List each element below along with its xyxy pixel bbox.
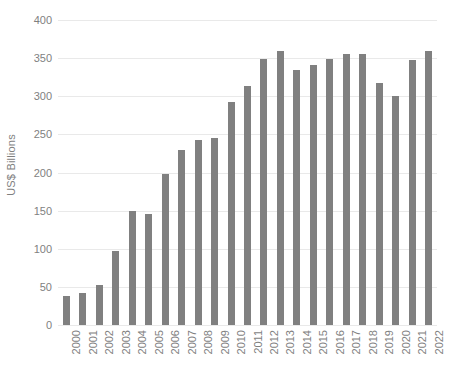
- y-axis-tick-labels: 400350300250200150100500: [0, 0, 52, 371]
- x-axis-tick-label: 2011: [253, 330, 264, 354]
- bar[interactable]: [359, 54, 366, 325]
- x-axis-tick-label: 2008: [203, 330, 214, 354]
- bar[interactable]: [129, 211, 136, 325]
- bar-chart: US$ Billions 400350300250200150100500 20…: [0, 0, 449, 371]
- bar[interactable]: [63, 296, 70, 325]
- bar[interactable]: [162, 174, 169, 325]
- y-axis-tick-label: 300: [0, 91, 52, 102]
- bar-slot[interactable]: [206, 20, 222, 325]
- bar[interactable]: [79, 293, 86, 325]
- bar[interactable]: [195, 140, 202, 325]
- bar-slot[interactable]: [421, 20, 437, 325]
- bar-slot[interactable]: [404, 20, 420, 325]
- x-axis-tick-label: 2004: [137, 330, 148, 354]
- x-axis-tick-label: 2010: [236, 330, 247, 354]
- bar-slot[interactable]: [256, 20, 272, 325]
- bar-slot[interactable]: [388, 20, 404, 325]
- y-axis-tick-label: 50: [0, 281, 52, 292]
- bar-slot[interactable]: [173, 20, 189, 325]
- bar-slot[interactable]: [58, 20, 74, 325]
- y-axis-tick-label: 250: [0, 129, 52, 140]
- x-axis-tick-label: 2005: [154, 330, 165, 354]
- bar[interactable]: [310, 65, 317, 325]
- bar[interactable]: [343, 54, 350, 325]
- bar[interactable]: [277, 51, 284, 326]
- x-axis-tick-label: 2013: [285, 330, 296, 354]
- x-axis-tick-label: 2017: [351, 330, 362, 354]
- bar-slot[interactable]: [289, 20, 305, 325]
- bar-slot[interactable]: [124, 20, 140, 325]
- bar-slot[interactable]: [305, 20, 321, 325]
- x-axis-tick-label: 2001: [88, 330, 99, 354]
- x-axis-tick-label: 2016: [335, 330, 346, 354]
- y-axis-tick-label: 200: [0, 167, 52, 178]
- bar[interactable]: [409, 60, 416, 325]
- bar[interactable]: [392, 96, 399, 326]
- plot-area: [58, 20, 437, 325]
- x-axis-tick-label: 2019: [384, 330, 395, 354]
- bar[interactable]: [96, 285, 103, 325]
- x-axis-tick-label: 2002: [104, 330, 115, 354]
- bar-slot[interactable]: [338, 20, 354, 325]
- bar[interactable]: [376, 83, 383, 325]
- y-axis-tick-label: 150: [0, 205, 52, 216]
- bar[interactable]: [145, 214, 152, 325]
- bar-slot[interactable]: [91, 20, 107, 325]
- bar[interactable]: [425, 51, 432, 326]
- x-axis-tick-label: 2021: [417, 330, 428, 354]
- bar-slot[interactable]: [322, 20, 338, 325]
- x-axis-tick-label: 2000: [71, 330, 82, 354]
- y-axis-tick-label: 400: [0, 15, 52, 26]
- bar-slot[interactable]: [272, 20, 288, 325]
- bar-slot[interactable]: [371, 20, 387, 325]
- x-axis-tick-label: 2018: [368, 330, 379, 354]
- bar-slot[interactable]: [107, 20, 123, 325]
- bar-slot[interactable]: [140, 20, 156, 325]
- bar-slot[interactable]: [190, 20, 206, 325]
- x-axis-tick-label: 2014: [302, 330, 313, 354]
- y-axis-tick-label: 0: [0, 320, 52, 331]
- bar[interactable]: [112, 251, 119, 325]
- x-axis-tick-label: 2006: [170, 330, 181, 354]
- x-axis-tick-label: 2015: [318, 330, 329, 354]
- x-axis-tick-label: 2022: [434, 330, 445, 354]
- x-axis-tick-labels: 2000200120022003200420052006200720082009…: [58, 325, 437, 371]
- bar[interactable]: [244, 86, 251, 325]
- bar-slot[interactable]: [355, 20, 371, 325]
- bar-slot[interactable]: [223, 20, 239, 325]
- bar[interactable]: [260, 59, 267, 325]
- bar[interactable]: [211, 138, 218, 325]
- y-axis-tick-label: 350: [0, 53, 52, 64]
- bar[interactable]: [228, 102, 235, 325]
- bar-slot[interactable]: [157, 20, 173, 325]
- y-axis-tick-label: 100: [0, 243, 52, 254]
- x-axis-tick-label: 2012: [269, 330, 280, 354]
- bar[interactable]: [293, 70, 300, 325]
- x-axis-tick-label: 2009: [220, 330, 231, 354]
- bar-slot[interactable]: [74, 20, 90, 325]
- x-axis-tick-label: 2007: [187, 330, 198, 354]
- x-axis-tick-label: 2020: [401, 330, 412, 354]
- bar-slot[interactable]: [239, 20, 255, 325]
- bar[interactable]: [326, 59, 333, 325]
- bar[interactable]: [178, 150, 185, 325]
- x-axis-tick-label: 2003: [121, 330, 132, 354]
- bar-series: [58, 20, 437, 325]
